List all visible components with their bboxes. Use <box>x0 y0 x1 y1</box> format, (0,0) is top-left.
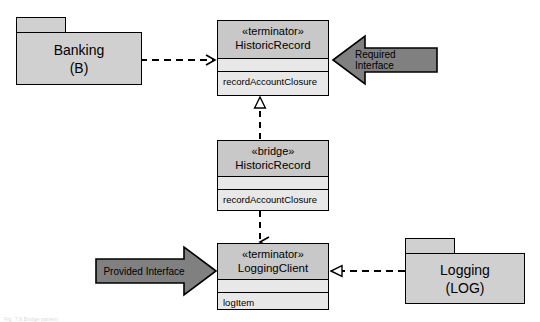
package-logging-name: Logging <box>440 261 490 279</box>
package-tab-logging <box>405 238 455 254</box>
class-name-label: HistoricRecord <box>218 158 328 173</box>
package-tab-banking <box>16 17 66 33</box>
stereotype-label: «terminator» <box>218 24 328 38</box>
figure-caption: Fig. 7.9 Bridge pattern <box>4 316 58 322</box>
stereotype-label: «bridge» <box>218 144 328 158</box>
class-header: «terminator» LoggingClient <box>218 244 328 280</box>
class-historic-record-terminator[interactable]: «terminator» HistoricRecord recordAccoun… <box>217 20 329 96</box>
package-body-logging: Logging (LOG) <box>405 253 525 304</box>
required-interface-annotation: Required Interface <box>333 36 437 84</box>
provided-interface-label: Provided Interface <box>96 247 216 295</box>
provided-interface-annotation: Provided Interface <box>96 247 216 295</box>
class-name-label: LoggingClient <box>218 261 328 276</box>
class-header: «bridge» HistoricRecord <box>218 141 328 177</box>
package-banking-alias: (B) <box>70 59 89 77</box>
package-banking-name: Banking <box>54 41 105 59</box>
package-logging-alias: (LOG) <box>446 279 485 297</box>
attributes-compartment <box>218 59 328 72</box>
package-logging[interactable]: Logging (LOG) <box>405 238 525 304</box>
package-banking[interactable]: Banking (B) <box>16 17 142 85</box>
class-header: «terminator» HistoricRecord <box>218 21 328 59</box>
operations-compartment: recordAccountClosure <box>218 72 328 88</box>
class-logging-client-terminator[interactable]: «terminator» LoggingClient logItem <box>217 243 329 310</box>
package-body-banking: Banking (B) <box>16 32 142 85</box>
attributes-compartment <box>218 177 328 190</box>
required-interface-label: Required Interface <box>333 36 437 84</box>
attributes-compartment <box>218 280 328 293</box>
operations-compartment: recordAccountClosure <box>218 190 328 206</box>
operations-compartment: logItem <box>218 293 328 309</box>
class-name-label: HistoricRecord <box>218 38 328 53</box>
class-historic-record-bridge[interactable]: «bridge» HistoricRecord recordAccountClo… <box>217 140 329 211</box>
stereotype-label: «terminator» <box>218 247 328 261</box>
